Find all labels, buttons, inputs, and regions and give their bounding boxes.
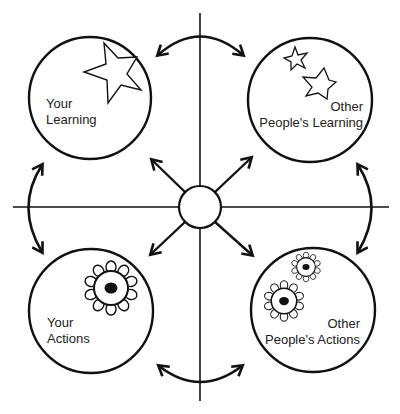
- left-curved-double-arrow: [29, 165, 43, 252]
- your-actions-circle: [29, 249, 153, 373]
- other-actions-line1: Other: [265, 316, 360, 332]
- your-learning-line2: Learning: [46, 112, 97, 128]
- other-learning-line1: Other: [259, 99, 363, 115]
- other-learning-line2: People's Learning: [259, 115, 363, 131]
- other-learning-label: Other People's Learning: [259, 99, 363, 131]
- arrow-to-other-learning: [215, 158, 251, 192]
- arrow-to-your-actions: [151, 222, 185, 254]
- other-actions-line2: People's Actions: [265, 332, 360, 348]
- right-curved-double-arrow: [358, 165, 372, 252]
- your-learning-line1: Your: [46, 96, 97, 112]
- arrow-to-your-learning: [152, 160, 185, 192]
- arrow-to-other-actions: [215, 222, 252, 255]
- your-actions-line2: Actions: [47, 331, 90, 347]
- your-actions-label: Your Actions: [47, 315, 90, 347]
- center-node: [179, 186, 221, 228]
- learning-actions-diagram: [0, 0, 400, 414]
- your-learning-label: Your Learning: [46, 96, 97, 128]
- your-actions-line1: Your: [47, 315, 90, 331]
- other-actions-label: Other People's Actions: [265, 316, 360, 348]
